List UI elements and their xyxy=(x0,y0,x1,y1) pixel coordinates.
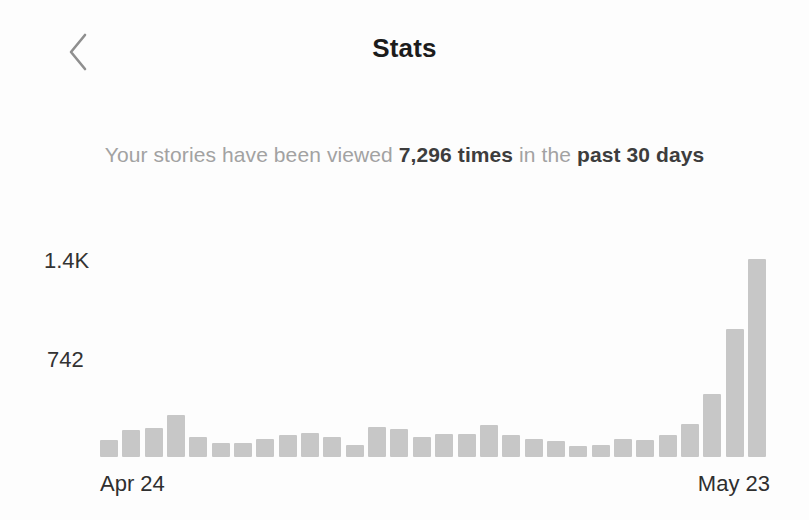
bar xyxy=(659,435,677,457)
x-axis: Apr 24 May 23 xyxy=(100,471,770,497)
bar xyxy=(323,437,341,457)
bar xyxy=(122,430,140,457)
bar-chart xyxy=(100,259,766,457)
bar xyxy=(726,329,744,457)
bar xyxy=(502,435,520,457)
bar xyxy=(480,425,498,457)
bar xyxy=(569,446,587,457)
y-axis-tick-max: 1.4K xyxy=(44,248,89,274)
bar xyxy=(390,429,408,457)
summary-prefix: Your stories have been viewed xyxy=(105,143,399,166)
summary-period: past 30 days xyxy=(577,143,704,166)
views-summary: Your stories have been viewed 7,296 time… xyxy=(0,143,809,167)
x-axis-label-end: May 23 xyxy=(698,471,770,497)
bar xyxy=(189,437,207,457)
bar xyxy=(413,437,431,457)
stats-screen: Stats Your stories have been viewed 7,29… xyxy=(0,0,809,520)
summary-middle: in the xyxy=(513,143,577,166)
bar xyxy=(234,443,252,457)
bar xyxy=(100,440,118,457)
bar xyxy=(167,415,185,457)
summary-views-count: 7,296 times xyxy=(399,143,513,166)
bar xyxy=(525,439,543,457)
bar xyxy=(145,428,163,457)
bar xyxy=(703,394,721,457)
bar xyxy=(458,434,476,457)
bar xyxy=(368,427,386,457)
bar xyxy=(279,435,297,457)
bar xyxy=(748,259,766,457)
bar xyxy=(301,433,319,457)
bar xyxy=(636,440,654,457)
bar xyxy=(547,441,565,457)
bar xyxy=(614,439,632,457)
bar xyxy=(212,443,230,457)
bar xyxy=(681,424,699,457)
bar xyxy=(346,445,364,457)
bar xyxy=(592,445,610,457)
bar xyxy=(256,439,274,457)
y-axis-tick-mid: 742 xyxy=(47,347,84,373)
page-title: Stats xyxy=(0,33,809,64)
x-axis-label-start: Apr 24 xyxy=(100,471,165,497)
bar xyxy=(435,434,453,457)
